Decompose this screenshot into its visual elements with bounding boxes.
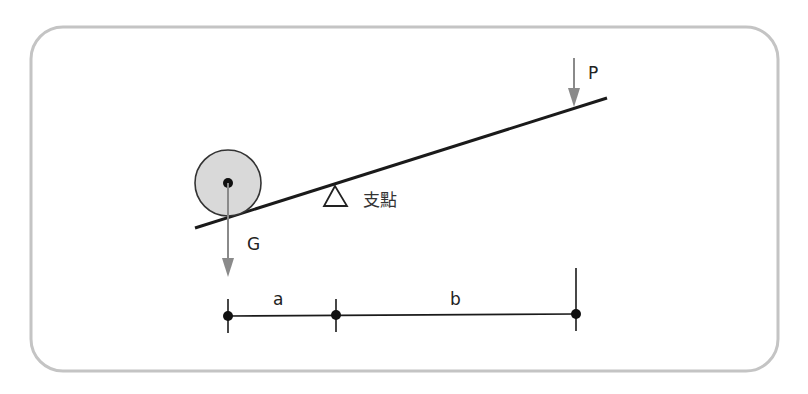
effort-arm-label: b — [450, 289, 461, 309]
lever-diagram: G P 支點 a b — [0, 0, 808, 394]
load-label: G — [247, 234, 260, 254]
lever-beam — [195, 98, 607, 228]
fulcrum-label: 支點 — [363, 190, 397, 210]
load-arm-label: a — [273, 289, 283, 309]
effort-label: P — [588, 63, 598, 83]
effort-force-arrow — [568, 58, 580, 107]
dimension-point-load — [223, 311, 233, 321]
dimension-point-effort — [571, 309, 581, 319]
fulcrum-triangle — [324, 186, 347, 206]
frame-border — [31, 27, 778, 371]
dimension-point-fulcrum — [331, 310, 341, 320]
